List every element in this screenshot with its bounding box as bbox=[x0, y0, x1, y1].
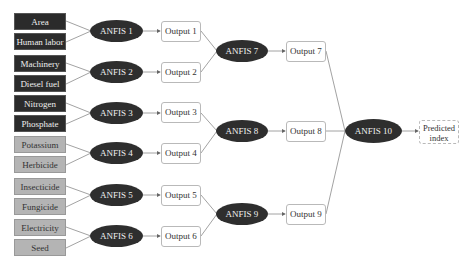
input-seed: Seed bbox=[14, 239, 66, 256]
anfis-10-node: ANFIS 10 bbox=[345, 119, 402, 143]
output-1-box: Output 1 bbox=[161, 21, 201, 42]
output-9-box: Output 9 bbox=[286, 204, 326, 225]
input-potassium: Potassium bbox=[14, 136, 66, 153]
input-machinery: Machinery bbox=[14, 55, 66, 72]
input-nitrogen: Nitrogen bbox=[14, 95, 66, 112]
input-insecticide: Insecticide bbox=[14, 178, 66, 195]
predicted-label-line2: index bbox=[420, 133, 458, 143]
output-8-box: Output 8 bbox=[286, 121, 326, 142]
anfis-6-node: ANFIS 6 bbox=[90, 225, 143, 247]
anfis-1-node: ANFIS 1 bbox=[90, 20, 143, 42]
anfis-8-node: ANFIS 8 bbox=[216, 120, 268, 142]
output-7-box: Output 7 bbox=[286, 41, 326, 62]
anfis-architecture-diagram: Area Human labor Machinery Diesel fuel N… bbox=[0, 0, 473, 269]
input-diesel-fuel: Diesel fuel bbox=[14, 75, 66, 92]
output-6-box: Output 6 bbox=[161, 226, 201, 247]
input-electricity: Electricity bbox=[14, 219, 66, 236]
output-2-box: Output 2 bbox=[161, 62, 201, 83]
input-human-labor: Human labor bbox=[14, 33, 66, 50]
output-3-box: Output 3 bbox=[161, 102, 201, 123]
output-4-box: Output 4 bbox=[161, 143, 201, 164]
anfis-7-node: ANFIS 7 bbox=[216, 40, 268, 62]
predicted-label-line1: Predicted bbox=[420, 123, 458, 133]
anfis-9-node: ANFIS 9 bbox=[216, 203, 268, 225]
anfis-2-node: ANFIS 2 bbox=[90, 61, 143, 83]
anfis-3-node: ANFIS 3 bbox=[90, 102, 143, 124]
input-fungicide: Fungicide bbox=[14, 198, 66, 215]
output-5-box: Output 5 bbox=[161, 185, 201, 206]
input-herbicide: Herbicide bbox=[14, 156, 66, 173]
input-area: Area bbox=[14, 13, 66, 30]
anfis-4-node: ANFIS 4 bbox=[90, 142, 143, 164]
anfis-5-node: ANFIS 5 bbox=[90, 184, 143, 206]
input-phosphate: Phosphate bbox=[14, 115, 66, 132]
predicted-index-box: Predicted index bbox=[419, 120, 459, 144]
